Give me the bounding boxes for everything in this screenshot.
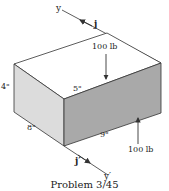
height-dimension-label: 4" xyxy=(1,82,10,91)
j-unit-vector-label: j xyxy=(93,19,97,29)
j-unit-vector-arrow xyxy=(80,20,92,26)
depth-dimension-label: 8" xyxy=(27,123,36,132)
bottom-force-label: 100 lb xyxy=(128,145,154,154)
figure-caption: Problem 3/45 xyxy=(0,179,169,190)
length-dimension-label: 9" xyxy=(100,130,109,139)
y-axis-label: y xyxy=(55,3,62,13)
top-offset-dimension-label: 5" xyxy=(73,84,82,93)
j-prime-unit-vector-label: j′ xyxy=(74,156,81,166)
box-diagram: y j 100 lb 4" 5" 8" 9" 100 lb j′ y′ xyxy=(0,0,169,191)
top-force-label: 100 lb xyxy=(92,42,118,51)
